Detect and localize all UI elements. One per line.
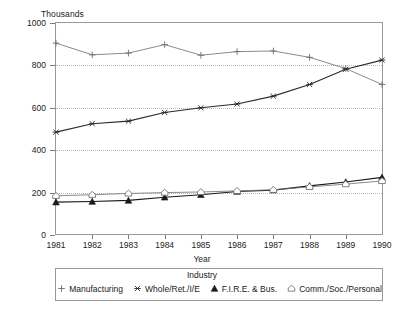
legend-entry-label: F.I.R.E. & Bus. — [222, 284, 277, 294]
series-f-i-r-e-bus — [53, 174, 386, 205]
legend-entry-label: Manufacturing — [69, 284, 123, 294]
legend-entry[interactable]: Comm./Soc./Personal — [286, 283, 382, 294]
x-axis-title: Year — [0, 254, 404, 264]
plus-icon — [56, 283, 67, 294]
cross-star-icon — [132, 283, 143, 294]
legend-title: Industry — [0, 270, 404, 280]
filled-triangle-icon — [209, 283, 220, 294]
series-comm-soc-personal — [53, 178, 386, 199]
legend-entry[interactable]: Whole/Ret./I/E — [132, 283, 200, 294]
series-whole-ret-i-e — [53, 58, 386, 135]
legend-entry[interactable]: Manufacturing — [56, 283, 123, 294]
legend-entry[interactable]: F.I.R.E. & Bus. — [209, 283, 277, 294]
legend-items: ManufacturingWhole/Ret./I/EF.I.R.E. & Bu… — [56, 283, 382, 294]
legend-entry-label: Whole/Ret./I/E — [145, 284, 200, 294]
chart-container: Thousands 02004006008001000 198119821983… — [0, 0, 404, 316]
legend-entry-label: Comm./Soc./Personal — [299, 284, 382, 294]
open-pentagon-icon — [286, 283, 297, 294]
series-manufacturing — [53, 40, 386, 88]
